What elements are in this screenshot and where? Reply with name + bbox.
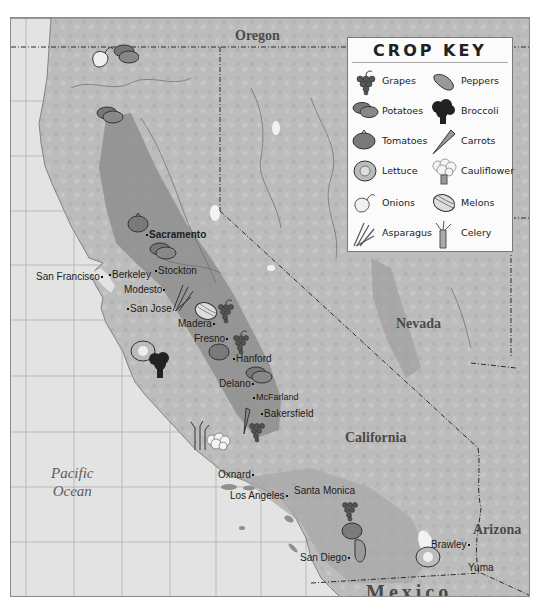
city-oxnard: Oxnard [218,469,255,480]
city-bakersfield: Bakersfield [260,408,313,419]
onion-icon [89,43,139,73]
celery-icon [431,220,457,250]
city-san-jose: San Jose [126,303,172,314]
key-item-celery: Celery [431,218,513,248]
potatoes-icon [245,365,275,385]
melon-icon [431,190,457,216]
key-item-carrots: Carrots [431,126,513,156]
key-label-cauliflower: Cauliflower [461,165,514,176]
asparagus-icon [171,283,195,313]
tomato-icon [126,213,150,233]
key-item-lettuce: Lettuce [352,156,434,186]
tomato-icon [352,128,378,154]
key-item-asparagus: Asparagus [352,218,434,248]
key-label-asparagus: Asparagus [382,227,432,238]
key-label-peppers: Peppers [461,75,499,86]
city-stockton: Stockton [154,265,197,276]
potatoes-icon [149,241,179,261]
region-label-arizona: Arizona [473,522,521,538]
cauliflower-icon [431,158,457,186]
pepper-icon [431,68,457,96]
city-mcfarland: McFarland [252,392,299,403]
crop-key-title: CROP KEY [348,41,512,60]
grapes-icon [216,298,234,324]
region-label-nevada: Nevada [396,316,441,332]
tomato-icon [340,520,364,540]
key-label-lettuce: Lettuce [382,165,418,176]
potatoes-icon [96,105,126,125]
city-santa-monica: Santa Monica [294,485,355,496]
grapes-icon [340,496,358,522]
lettuce-icon [414,545,442,569]
crop-key-legend: CROP KEY Grapes Peppers Potatoes Broccol… [347,37,513,252]
city-san-diego: San Diego [300,552,351,563]
asparagus-icon [352,220,378,248]
grapes-icon [231,329,249,355]
key-item-melons: Melons [431,188,513,218]
key-item-peppers: Peppers [431,66,513,96]
city-berkeley: Berkeley [108,269,151,280]
city-yuma: Yuma [468,562,494,573]
key-item-grapes: Grapes [352,66,434,96]
key-label-melons: Melons [461,197,494,208]
region-label-california: California [345,430,406,446]
key-item-potatoes: Potatoes [352,96,434,126]
key-item-broccoli: Broccoli [431,96,513,126]
key-label-grapes: Grapes [382,75,416,86]
ocean-label: Pacific Ocean [51,464,93,500]
city-san-francisco: San Francisco [36,271,104,282]
key-label-broccoli: Broccoli [461,105,499,116]
onion-icon [352,190,378,216]
key-label-celery: Celery [461,227,492,238]
crop-key-divider [352,62,508,63]
tomato-icon [207,341,231,361]
key-label-potatoes: Potatoes [382,105,423,116]
broccoli-icon [431,98,457,126]
region-label-mexico: Mexico [366,581,452,597]
ocean-label-line1: Pacific [51,464,93,482]
grapes-icon [247,417,265,443]
carrot-icon [431,128,457,156]
key-label-carrots: Carrots [461,135,495,146]
lettuce-icon [352,158,378,184]
ocean-label-line2: Ocean [51,482,93,500]
city-sacramento: Sacramento [145,229,206,240]
key-item-cauliflower: Cauliflower [431,156,513,186]
key-label-tomatoes: Tomatoes [382,135,427,146]
cauliflower-icon [205,432,231,454]
lake-tahoe [210,205,220,221]
city-los-angeles: Los Angeles [230,490,289,501]
key-label-onions: Onions [382,197,415,208]
grapes-icon [352,68,378,96]
potatoes-icon [352,98,380,124]
key-item-tomatoes: Tomatoes [352,126,434,156]
city-modesto: Modesto [124,284,166,295]
pepper-icon [351,538,369,566]
broccoli-icon [148,351,172,379]
region-label-oregon: Oregon [235,28,280,44]
key-item-onions: Onions [352,188,434,218]
melon-icon [194,301,218,321]
